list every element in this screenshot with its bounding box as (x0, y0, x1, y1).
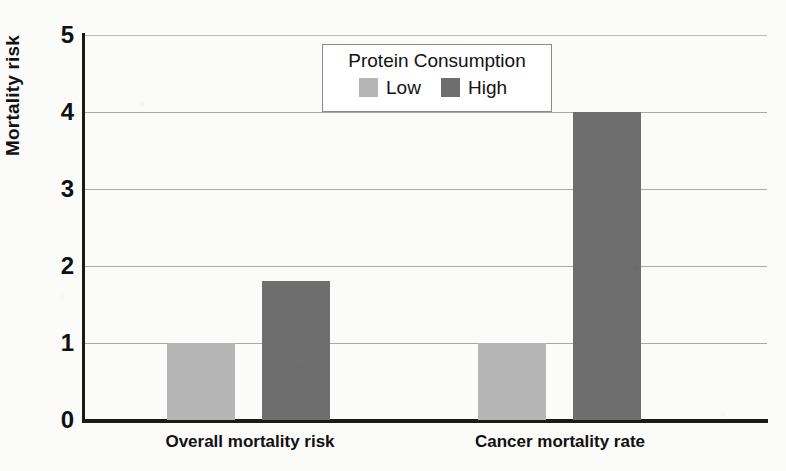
gridline-5 (85, 35, 767, 36)
y-tick-5: 5 (34, 23, 74, 47)
legend-entry-low: Low (359, 78, 421, 97)
bar-chart-figure: Mortality risk 5 4 3 2 1 0 Overall morta… (0, 0, 786, 471)
legend-entry-high: High (441, 78, 507, 97)
legend-label-high: High (468, 78, 507, 97)
legend-swatch-low-icon (359, 78, 378, 97)
legend-swatch-high-icon (441, 78, 460, 97)
gridline-3 (85, 189, 767, 190)
bar-cancer-high (573, 112, 641, 420)
y-tick-2: 2 (34, 254, 74, 278)
gridline-4 (85, 112, 767, 113)
bar-cancer-low (478, 343, 546, 420)
bar-overall-low (167, 343, 235, 420)
legend: Protein Consumption Low High (322, 44, 552, 112)
y-tick-1: 1 (34, 331, 74, 355)
y-tick-3: 3 (34, 177, 74, 201)
legend-label-low: Low (386, 78, 421, 97)
y-axis-title: Mortality risk (2, 0, 28, 156)
y-tick-4: 4 (34, 100, 74, 124)
category-label-cancer: Cancer mortality rate (430, 432, 690, 452)
y-axis-tick-labels: 5 4 3 2 1 0 (34, 0, 74, 471)
legend-title: Protein Consumption (323, 50, 551, 72)
category-label-overall: Overall mortality risk (120, 432, 380, 452)
bar-overall-high (262, 281, 330, 420)
y-tick-0: 0 (34, 408, 74, 432)
gridline-2 (85, 266, 767, 267)
